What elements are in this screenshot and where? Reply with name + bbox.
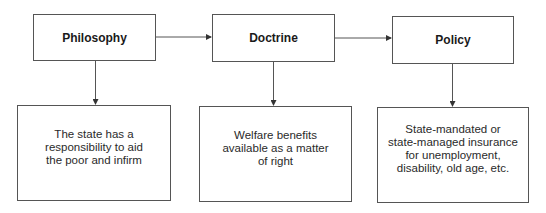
node-philosophy-label: Philosophy [62,31,127,45]
node-philosophy: Philosophy [33,14,156,61]
detail-philosophy-text: The state has a responsibility to aid th… [45,128,143,167]
node-policy: Policy [392,16,514,64]
detail-doctrine: Welfare benefits available as a matter o… [199,106,352,202]
node-doctrine: Doctrine [212,14,335,62]
node-doctrine-label: Doctrine [249,31,298,45]
detail-policy-text: State-mandated or state-managed insuranc… [388,123,518,175]
detail-philosophy: The state has a responsibility to aid th… [17,105,171,201]
detail-doctrine-text: Welfare benefits available as a matter o… [222,129,328,168]
node-policy-label: Policy [435,33,470,47]
flow-diagram: Philosophy Doctrine Policy The state has… [0,0,546,213]
detail-policy: State-mandated or state-managed insuranc… [377,107,529,203]
